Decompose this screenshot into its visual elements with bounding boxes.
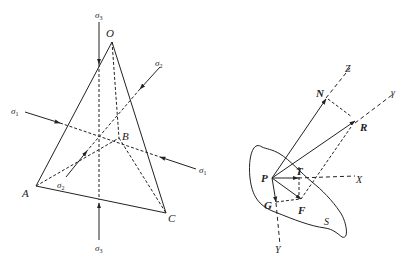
point-label-G: G [264, 199, 272, 211]
axis-label-y: γ [391, 87, 396, 98]
axis-label-Z: Z [345, 63, 351, 74]
point-label-N: N [315, 87, 325, 99]
sigma1-right-label: σ1 [199, 165, 206, 176]
axes [276, 68, 392, 245]
vertex-label-B: B [122, 130, 129, 142]
tetrahedron [36, 42, 166, 213]
sigma1-left-label: σ1 [11, 106, 18, 117]
sigma2-bottom-label: σ2 [57, 180, 64, 191]
construction-lines [276, 99, 352, 202]
vertex-label-O: O [106, 27, 114, 39]
sigma3-top-label: σ3 [95, 10, 102, 21]
figure-canvas: O A B C σ3 σ3 σ1 σ1 σ2 σ2 P N R T F [0, 0, 407, 265]
surface-S [250, 146, 347, 238]
vertex-label-A: A [21, 187, 29, 199]
vector-PF [272, 178, 301, 199]
line-G-F [276, 199, 300, 202]
point-label-R: R [359, 121, 367, 133]
tetrahedron-labels: O A B C σ3 σ3 σ1 σ1 σ2 σ2 [11, 10, 206, 254]
line-N-R [328, 99, 352, 117]
sigma3-bottom-label: σ3 [95, 243, 102, 254]
point-label-T: T [296, 165, 304, 177]
sigma1-axis [25, 112, 196, 169]
sigma1-dashed [60, 123, 160, 157]
point-label-P: P [261, 172, 268, 184]
sigma2-top-arrow [140, 67, 160, 89]
edge-BC-hidden [119, 138, 166, 213]
axis-label-Y: Y [275, 244, 282, 255]
sigma1-right-arrow [160, 157, 196, 169]
line-R-F [301, 127, 351, 199]
vector-PR [272, 121, 355, 178]
decomposition-labels: P N R T F G Z γ X Y S [261, 63, 396, 255]
surface-outline [250, 146, 347, 238]
edge-OB-hidden [112, 42, 119, 138]
sigma1-left-arrow [25, 112, 60, 123]
point-label-F: F [297, 204, 306, 216]
axis-y [355, 95, 392, 123]
sigma2-top-label: σ2 [155, 58, 162, 69]
surface-label-S: S [324, 216, 329, 227]
edge-AC [36, 186, 166, 213]
axis-label-X: X [355, 174, 363, 185]
axis-Y [276, 203, 280, 245]
vertex-label-C: C [168, 212, 176, 224]
edge-OA [36, 42, 112, 186]
diagram-svg: O A B C σ3 σ3 σ1 σ1 σ2 σ2 P N R T F [0, 0, 407, 265]
vectors [272, 99, 355, 202]
vector-PG [272, 178, 276, 202]
sigma2-bottom-arrow [66, 151, 87, 177]
sigma2-dashed [86, 89, 140, 152]
